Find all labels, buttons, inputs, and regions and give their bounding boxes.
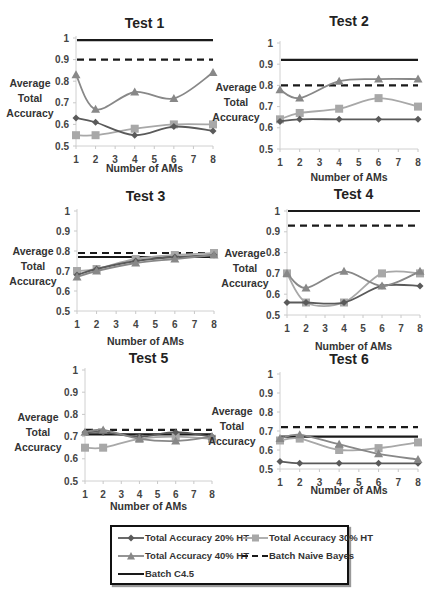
x-tick-label: 8 bbox=[417, 323, 423, 334]
x-tick-label: 6 bbox=[173, 489, 179, 500]
square-marker-icon bbox=[72, 131, 80, 139]
y-tick-label: 0.8 bbox=[56, 246, 70, 257]
x-tick-label: 6 bbox=[379, 323, 385, 334]
x-tick-label: 1 bbox=[277, 157, 283, 168]
diamond-marker-icon bbox=[284, 299, 291, 306]
x-tick-label: 5 bbox=[155, 489, 161, 500]
y-tick-label: 0.9 bbox=[266, 226, 280, 237]
series-ht20 bbox=[277, 458, 422, 467]
series-ht40 bbox=[283, 267, 425, 292]
series-ht40 bbox=[276, 430, 423, 463]
x-tick-label: 7 bbox=[396, 477, 402, 488]
x-tick-label: 1 bbox=[277, 477, 283, 488]
x-tick-label: 2 bbox=[94, 319, 100, 330]
x-tick-label: 4 bbox=[341, 323, 347, 334]
chart-title: Test 5 bbox=[129, 350, 169, 366]
y-tick-label: 1 bbox=[64, 206, 70, 217]
series-line bbox=[76, 73, 213, 110]
x-tick-label: 6 bbox=[172, 319, 178, 330]
series-ht20 bbox=[284, 282, 424, 306]
y-axis-label: Accuracy bbox=[212, 111, 259, 123]
y-axis-label: Accuracy bbox=[208, 435, 255, 447]
y-tick-label: 0.9 bbox=[55, 54, 69, 65]
x-tick-label: 2 bbox=[100, 489, 106, 500]
y-axis-label: Average bbox=[17, 411, 58, 423]
y-tick-label: 0.5 bbox=[259, 144, 273, 155]
y-tick-label: 0.5 bbox=[266, 310, 280, 321]
y-tick-label: 0.8 bbox=[64, 409, 78, 420]
diamond-marker-icon bbox=[375, 116, 382, 123]
y-tick-label: 0.8 bbox=[266, 247, 280, 258]
x-axis-label: Number of AMs bbox=[107, 335, 184, 347]
chart-panel-test-6: Test 60.50.60.70.80.9112345678AverageTot… bbox=[208, 351, 422, 496]
x-tick-label: 7 bbox=[191, 489, 197, 500]
y-tick-label: 0.6 bbox=[259, 122, 273, 133]
diamond-marker-icon bbox=[73, 114, 80, 121]
y-axis-label: Total bbox=[220, 420, 244, 432]
x-tick-label: 2 bbox=[93, 154, 99, 165]
series-line bbox=[280, 79, 418, 98]
y-axis-label: Average bbox=[211, 405, 252, 417]
diamond-marker-icon bbox=[296, 460, 303, 467]
y-tick-label: 0.5 bbox=[56, 306, 70, 317]
y-axis-label: Average bbox=[215, 81, 256, 93]
y-tick-label: 0.7 bbox=[64, 431, 78, 442]
x-tick-label: 7 bbox=[396, 157, 402, 168]
diamond-marker-icon bbox=[375, 460, 382, 467]
square-marker-icon bbox=[414, 438, 422, 446]
y-tick-label: 0.7 bbox=[56, 266, 70, 277]
y-axis-label: Accuracy bbox=[14, 441, 61, 453]
legend-dashed-line-icon bbox=[242, 551, 268, 561]
chart-title: Test 2 bbox=[329, 13, 369, 29]
x-tick-label: 2 bbox=[303, 323, 309, 334]
x-tick-label: 4 bbox=[137, 489, 143, 500]
diamond-marker-icon bbox=[131, 132, 138, 139]
legend-line-diamond-icon bbox=[118, 533, 144, 543]
chart-legend: Total Accuracy 20% HT Total Accuracy 30%… bbox=[110, 525, 349, 585]
y-tick-label: 0.9 bbox=[56, 226, 70, 237]
y-tick-label: 0.5 bbox=[259, 464, 273, 475]
triangle-marker-icon bbox=[72, 70, 81, 78]
y-tick-label: 0.9 bbox=[259, 388, 273, 399]
square-marker-icon bbox=[81, 444, 89, 452]
y-axis-label: Average bbox=[12, 245, 53, 257]
y-tick-label: 0.9 bbox=[259, 59, 273, 70]
x-tick-label: 1 bbox=[73, 154, 79, 165]
x-tick-label: 3 bbox=[119, 489, 125, 500]
x-tick-label: 8 bbox=[210, 154, 216, 165]
diamond-marker-icon bbox=[417, 282, 424, 289]
y-axis-label: Accuracy bbox=[9, 275, 56, 287]
square-marker-icon bbox=[414, 103, 422, 111]
square-marker-icon bbox=[296, 109, 304, 117]
y-tick-label: 0.5 bbox=[55, 141, 69, 152]
square-marker-icon bbox=[335, 105, 343, 113]
y-axis-label: Total bbox=[26, 426, 50, 438]
x-tick-label: 1 bbox=[82, 489, 88, 500]
legend-solid-line-icon bbox=[118, 569, 144, 579]
chart-title: Test 4 bbox=[334, 186, 374, 202]
chart-title: Test 3 bbox=[126, 188, 166, 204]
diamond-marker-icon bbox=[210, 127, 217, 134]
chart-panel-test-4: Test 40.50.60.70.80.9112345678AverageTot… bbox=[221, 186, 424, 352]
y-axis-label: Total bbox=[18, 92, 42, 104]
chart-title: Test 6 bbox=[329, 351, 369, 367]
chart-panel-test-1: Test 10.50.60.70.80.9112345678AverageTot… bbox=[6, 15, 217, 174]
y-axis-label: Average bbox=[224, 247, 265, 259]
square-marker-icon bbox=[378, 269, 386, 277]
x-tick-label: 2 bbox=[297, 157, 303, 168]
legend-item-ht40: Total Accuracy 40% HT bbox=[118, 550, 249, 561]
square-marker-icon bbox=[375, 94, 383, 102]
y-tick-label: 0.6 bbox=[64, 453, 78, 464]
y-tick-label: 0.8 bbox=[259, 407, 273, 418]
legend-label: Total Accuracy 30% HT bbox=[269, 532, 373, 543]
x-tick-label: 7 bbox=[191, 154, 197, 165]
x-axis-label: Number of AMs bbox=[310, 484, 387, 496]
y-tick-label: 1 bbox=[267, 38, 273, 49]
y-axis-label: Accuracy bbox=[6, 107, 53, 119]
series-ht20 bbox=[277, 116, 422, 125]
chart-title: Test 1 bbox=[125, 15, 165, 31]
x-axis-label: Number of AMs bbox=[310, 171, 387, 183]
x-tick-label: 8 bbox=[415, 157, 421, 168]
chart-panel-test-3: Test 30.50.60.70.80.9112345678AverageTot… bbox=[9, 188, 218, 347]
chart-panel-test-2: Test 20.50.60.70.80.9112345678AverageTot… bbox=[212, 13, 422, 183]
